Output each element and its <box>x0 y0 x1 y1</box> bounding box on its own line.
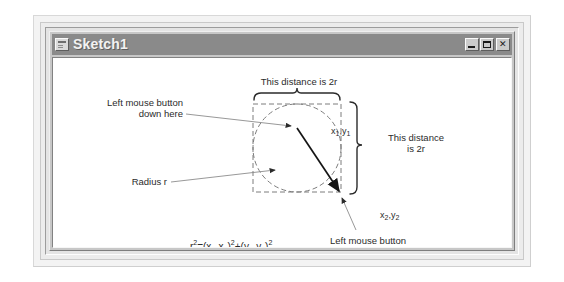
window-controls: ✕ <box>465 38 510 51</box>
formula-sup2: 2 <box>268 239 272 246</box>
right-brace <box>350 102 362 194</box>
top-distance-label: This distance is 2r <box>220 76 378 87</box>
close-button[interactable]: ✕ <box>496 38 510 51</box>
mouse-down-label-line1: Left mouse button <box>77 97 183 108</box>
point-end-y-sub: 2 <box>395 214 399 221</box>
inner-bevel-frame: Sketch1 ✕ <box>45 27 519 255</box>
sketch-canvas[interactable]: This distance is 2r This distance is 2r … <box>52 57 512 248</box>
point-start-label: x1,y1 <box>296 115 350 150</box>
radius-label: Radius r <box>83 176 167 187</box>
mouse-up-label-line1: Left mouse button <box>293 235 443 246</box>
minimize-icon <box>466 39 478 50</box>
outer-bevel-frame: Sketch1 ✕ <box>33 15 531 267</box>
mouse-down-label-line2: down here <box>77 108 183 119</box>
point-end-label: x2,y2 <box>345 199 399 234</box>
window-titlebar[interactable]: Sketch1 ✕ <box>52 34 512 55</box>
distance-formula: r2=(x2-x1)2+(y2-y1)2 <box>151 226 272 248</box>
minimize-button[interactable] <box>465 38 479 51</box>
maximize-button[interactable] <box>480 38 494 51</box>
formula-eq: =(x <box>197 241 211 248</box>
close-icon: ✕ <box>497 39 509 50</box>
window-title: Sketch1 <box>73 37 465 52</box>
sketch-window: Sketch1 ✕ <box>49 31 515 251</box>
screenshot-root: Sketch1 ✕ <box>0 0 564 282</box>
formula-minus: -x <box>215 241 223 248</box>
top-brace <box>254 88 340 100</box>
right-distance-label-line1: This distance <box>368 132 464 143</box>
maximize-icon <box>481 39 493 50</box>
formula-minus2: -y <box>253 241 261 248</box>
window-document-icon[interactable] <box>55 38 69 51</box>
mouse-up-label-line2: up here <box>293 246 443 248</box>
formula-plus: +(y <box>235 241 249 248</box>
leader-line-mouse-down <box>186 114 291 126</box>
right-distance-label-line2: is 2r <box>368 143 464 154</box>
point-start-y-sub: 1 <box>346 130 350 137</box>
mid-bevel-frame: Sketch1 ✕ <box>40 22 524 260</box>
leader-line-radius <box>171 170 275 182</box>
